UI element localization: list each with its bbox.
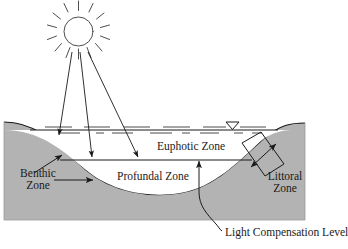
label-profundal-zone: Profundal Zone [117, 170, 189, 182]
label-littoral-zone: Littoral Zone [263, 170, 307, 195]
label-littoral-zone-line1: Littoral [263, 170, 307, 182]
label-light-compensation-level: Light Compensation Level [225, 226, 348, 238]
label-benthic-zone: Benthic Zone [11, 167, 65, 192]
label-benthic-zone-line2: Zone [11, 179, 65, 191]
sun-icon [48, 1, 110, 59]
sun-ray-left [59, 52, 72, 135]
sun-rays [48, 1, 110, 59]
label-euphotic-zone: Euphotic Zone [157, 140, 225, 152]
label-benthic-zone-line1: Benthic [11, 167, 65, 179]
label-littoral-zone-line2: Zone [263, 182, 307, 194]
water-level-triangle-icon [226, 122, 239, 130]
sun-disc [64, 17, 93, 46]
